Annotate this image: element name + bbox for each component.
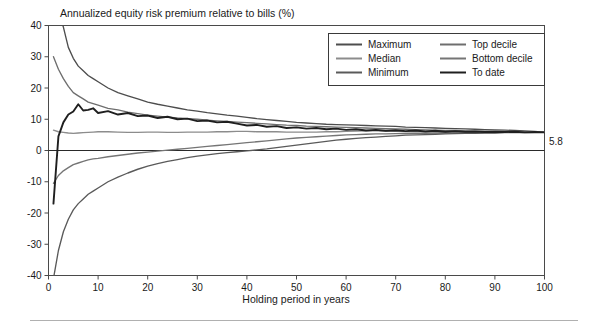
x-axis: 0102030405060708090100 xyxy=(46,276,554,293)
y-tick-label: 30 xyxy=(30,51,42,62)
endpoint-value-label: 5.8 xyxy=(549,136,563,147)
y-tick-label: -10 xyxy=(27,176,42,187)
x-tick-label: 20 xyxy=(142,282,154,293)
chart-title: Annualized equity risk premium relative … xyxy=(60,7,295,19)
x-tick-label: 100 xyxy=(536,282,553,293)
legend-label-median: Median xyxy=(368,53,401,64)
x-tick-label: 90 xyxy=(489,282,501,293)
y-tick-label: 40 xyxy=(30,20,42,31)
series-line-bottom-decile xyxy=(53,132,544,183)
y-tick-label: 0 xyxy=(36,145,42,156)
y-tick-label: -40 xyxy=(27,270,42,281)
y-tick-label: 20 xyxy=(30,83,42,94)
x-tick-label: 80 xyxy=(440,282,452,293)
x-tick-label: 40 xyxy=(241,282,253,293)
x-tick-label: 10 xyxy=(93,282,105,293)
risk-premium-line-chart: Annualized equity risk premium relative … xyxy=(0,0,603,332)
legend-label-bottom-decile: Bottom decile xyxy=(472,53,533,64)
chart-legend: MaximumMedianMinimumTop decileBottom dec… xyxy=(329,34,545,86)
x-tick-label: 50 xyxy=(291,282,303,293)
figure-container: Annualized equity risk premium relative … xyxy=(0,0,603,332)
legend-label-to-date: To date xyxy=(472,67,505,78)
x-tick-label: 30 xyxy=(192,282,204,293)
y-axis: -40-30-20-10010203040 xyxy=(27,20,48,281)
x-axis-title: Holding period in years xyxy=(242,293,349,305)
legend-label-minimum: Minimum xyxy=(368,67,409,78)
x-tick-label: 0 xyxy=(46,282,52,293)
legend-label-top-decile: Top decile xyxy=(472,39,517,50)
x-tick-label: 70 xyxy=(390,282,402,293)
y-tick-label: -30 xyxy=(27,239,42,250)
y-tick-label: 10 xyxy=(30,114,42,125)
legend-label-maximum: Maximum xyxy=(368,39,411,50)
y-tick-label: -20 xyxy=(27,208,42,219)
x-tick-label: 60 xyxy=(341,282,353,293)
